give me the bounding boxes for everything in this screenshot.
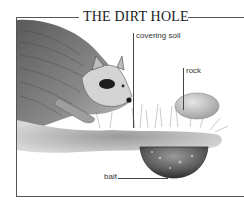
dirt-hole-illustration xyxy=(0,0,244,201)
bait-label: bait xyxy=(104,172,117,181)
rock-label: rock xyxy=(186,66,201,75)
covering-soil-label: covering soil xyxy=(136,31,180,40)
dirt-hole xyxy=(140,147,208,178)
raccoon-nose xyxy=(126,97,131,102)
raccoon xyxy=(17,20,132,132)
rock xyxy=(175,93,219,119)
bait-leader xyxy=(118,178,168,179)
rock-leader xyxy=(183,68,184,110)
covering-soil-leader xyxy=(133,33,134,128)
raccoon-mask xyxy=(99,79,115,89)
